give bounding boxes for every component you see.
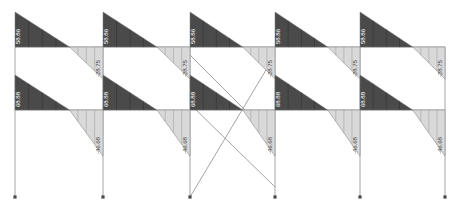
negative-moment-label: 58.86 bbox=[274, 28, 281, 44]
positive-moment-label: -46.68 bbox=[266, 136, 273, 154]
negative-moment-label: 58.86 bbox=[189, 28, 196, 44]
support-group bbox=[13, 195, 446, 198]
positive-moment-label: -28.75 bbox=[266, 59, 273, 77]
positive-moment-label: -46.68 bbox=[436, 136, 443, 154]
negative-moment-label: 68.88 bbox=[359, 91, 366, 107]
positive-moment-label: -28.75 bbox=[436, 59, 443, 77]
pin-support-2 bbox=[101, 195, 104, 198]
negative-moment-label: 58.86 bbox=[102, 28, 109, 44]
frame-moment-diagram: 58.86-28.7558.86-28.7558.86-28.7558.86-2… bbox=[0, 0, 458, 207]
positive-moment-label: -28.75 bbox=[351, 59, 358, 77]
positive-moment-label: -46.68 bbox=[94, 136, 101, 154]
positive-moment-label: -46.68 bbox=[181, 136, 188, 154]
positive-moment-label: -28.75 bbox=[94, 59, 101, 77]
pin-support-1 bbox=[13, 195, 16, 198]
pin-support-3 bbox=[188, 195, 191, 198]
negative-moment-label: 58.86 bbox=[14, 28, 21, 44]
negative-moment-label: 68.88 bbox=[189, 91, 196, 107]
negative-moment-label: 68.88 bbox=[274, 91, 281, 107]
negative-moment-label: 58.86 bbox=[359, 28, 366, 44]
positive-moment-label: -28.75 bbox=[181, 59, 188, 77]
pin-support-5 bbox=[358, 195, 361, 198]
moment-area-group bbox=[15, 12, 445, 156]
positive-moment-label: -46.68 bbox=[351, 136, 358, 154]
moment-diagram-canvas: 58.86-28.7558.86-28.7558.86-28.7558.86-2… bbox=[0, 0, 458, 207]
negative-moment-label: 68.88 bbox=[102, 91, 109, 107]
negative-moment-label: 68.88 bbox=[14, 91, 21, 107]
pin-support-6 bbox=[443, 195, 446, 198]
pin-support-4 bbox=[273, 195, 276, 198]
